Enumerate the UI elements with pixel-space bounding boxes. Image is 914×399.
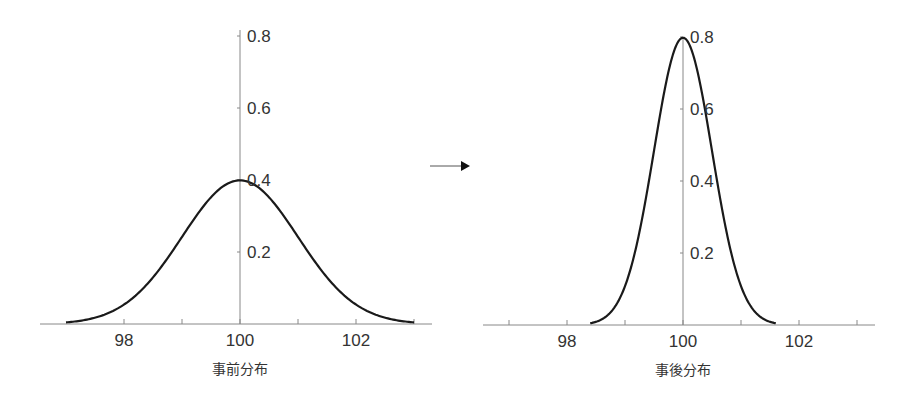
x-tick-label-98: 98	[558, 332, 577, 351]
x-tick-label-102: 102	[342, 331, 370, 350]
y-tick-label-0.6: 0.6	[690, 100, 714, 119]
y-tick-label-0.4: 0.4	[690, 172, 714, 191]
y-tick-label-0.4: 0.4	[247, 171, 271, 190]
x-tick-label-100: 100	[669, 332, 697, 351]
posterior-distribution-chart: 98 100 102 0.2 0.4 0.6 0.8 事後分布	[483, 28, 875, 378]
x-ticks	[509, 320, 857, 325]
x-tick-label-100: 100	[226, 331, 254, 350]
y-tick-label-0.2: 0.2	[690, 244, 714, 263]
y-tick-label-0.2: 0.2	[247, 243, 271, 262]
x-ticks	[124, 319, 414, 324]
figure-canvas: 98 100 102 0.2 0.4 0.6 0.8 事前分布 98 100 1…	[0, 0, 914, 399]
y-tick-label-0.8: 0.8	[690, 28, 714, 47]
x-tick-label-98: 98	[115, 331, 134, 350]
x-tick-label-102: 102	[785, 332, 813, 351]
prior-caption: 事前分布	[212, 361, 268, 377]
prior-distribution-chart: 98 100 102 0.2 0.4 0.6 0.8 事前分布	[40, 27, 432, 377]
arrow-icon	[430, 161, 470, 171]
y-tick-label-0.6: 0.6	[247, 99, 271, 118]
posterior-caption: 事後分布	[655, 362, 711, 378]
y-tick-label-0.8: 0.8	[247, 27, 271, 46]
